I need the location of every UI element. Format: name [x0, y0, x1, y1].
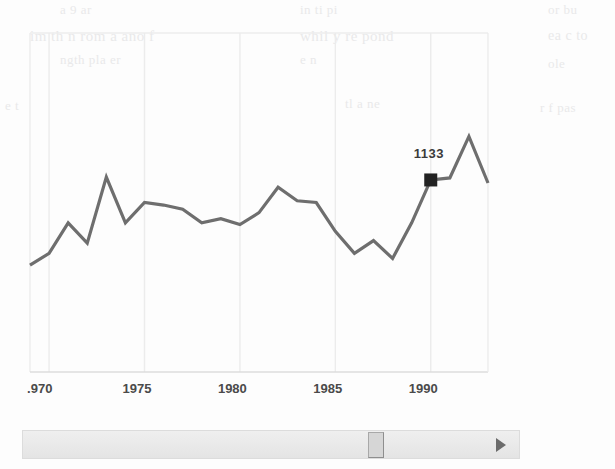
scrollbar-track[interactable]	[23, 431, 519, 458]
data-point-value-label: 1133	[414, 146, 444, 161]
chart-plot-area[interactable]	[0, 0, 615, 400]
chart-highlighted-point-marker[interactable]	[424, 173, 437, 186]
line-chart-widget[interactable]: 1133 .9701975198019851990	[0, 0, 615, 469]
horizontal-scrollbar[interactable]	[22, 430, 520, 459]
triangle-right-icon[interactable]	[496, 438, 506, 452]
x-axis-tick-label: 1980	[218, 381, 247, 396]
chart-gridlines	[49, 33, 431, 372]
scrollbar-thumb[interactable]	[368, 432, 384, 458]
x-axis-tick-label: 1985	[313, 381, 342, 396]
x-axis-tick-label: 1975	[123, 381, 152, 396]
x-axis-tick-labels: .9701975198019851990	[0, 381, 615, 405]
x-axis-tick-label: .970	[27, 381, 52, 396]
x-axis-tick-label: 1990	[409, 381, 438, 396]
